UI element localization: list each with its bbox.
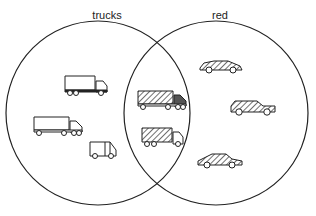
sedan-icon xyxy=(198,154,242,168)
venn-canvas xyxy=(0,0,316,216)
sports-car-icon xyxy=(200,61,242,73)
trucks-set-circle xyxy=(6,21,190,205)
station-wagon-icon xyxy=(231,101,275,115)
semi-truck-icon xyxy=(138,91,186,110)
box-truck-icon xyxy=(142,128,183,147)
delivery-van-icon xyxy=(90,142,116,159)
trucks-set-label: trucks xyxy=(92,9,121,21)
venn-diagram: trucks red xyxy=(0,0,316,216)
box-truck-icon xyxy=(65,76,107,96)
red-set-circle xyxy=(124,21,308,205)
red-set-label: red xyxy=(212,9,228,21)
semi-truck-icon xyxy=(34,117,82,136)
